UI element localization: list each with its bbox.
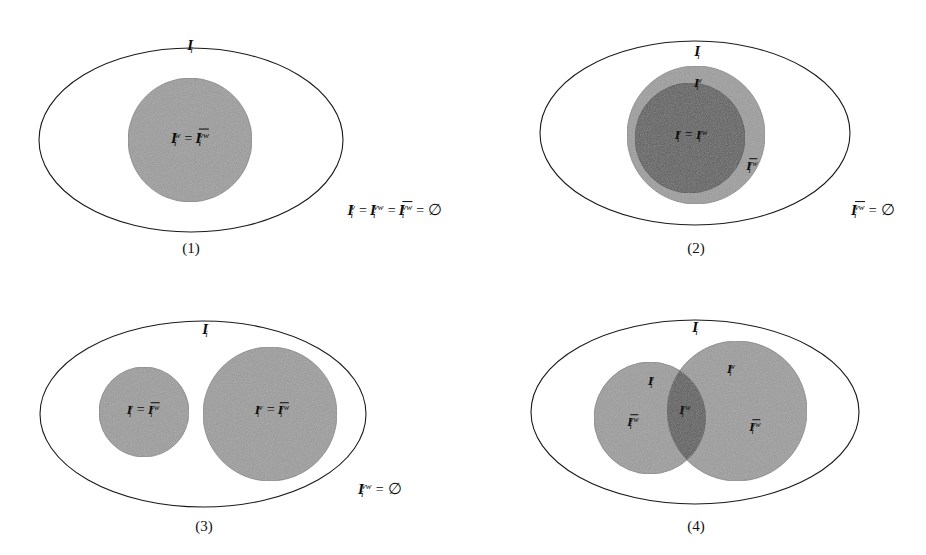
panel-3-side-equation: Iivw=∅ [358,481,402,499]
panel-3-caption: (3) [195,518,213,535]
figure-canvas: Ii Iiw=Iivw Iiv=Iivw=Iivw=∅ (1) [0,0,926,555]
panel-2: Ii Iiw Iiv=Iivw Iivw Iivw=∅ (2) [463,0,926,277]
panel-1: Ii Iiw=Iivw Iiv=Iivw=Iivw=∅ (1) [0,0,463,277]
intersection-label: Iivw [679,403,690,419]
right-disc-top-label: Iiw [727,362,735,378]
right-disc-only-label: Iivw [749,420,760,436]
universe-label: Ii [202,322,208,339]
left-disc-only-label: Iivw [627,415,638,431]
outer-ring-top-label: Iiw [694,76,702,92]
inner-disc-label: Iiv=Iivw [675,128,708,144]
panel-3-graphic [0,278,463,555]
universe-label: Ii [694,44,700,61]
universe-label: Ii [692,320,698,337]
panel-2-side-equation: Iivw=∅ [851,202,895,220]
left-disc-top-label: Iiv [648,374,654,390]
left-disc-label: Iiv=Iivw [127,403,160,419]
panel-2-caption: (2) [687,240,705,257]
panel-3: Ii Iiv=Iivw Iiw=Iivw Iivw=∅ (3) [0,278,463,555]
panel-1-side-equation: Iiv=Iivw=Iivw=∅ [347,202,442,220]
panel-1-graphic [0,0,463,277]
panel-4-caption: (4) [687,518,705,535]
right-disc-label: Iiw=Iivw [255,403,289,419]
universe-label: Ii [187,38,193,55]
inner-disc-label: Iiw=Iivw [171,131,209,148]
outer-ring-right-label: Iivw [746,159,757,175]
panel-4: Ii Iiv Iivw Iivw Iiw Iivw (4) [463,278,926,555]
panel-1-caption: (1) [182,240,200,257]
